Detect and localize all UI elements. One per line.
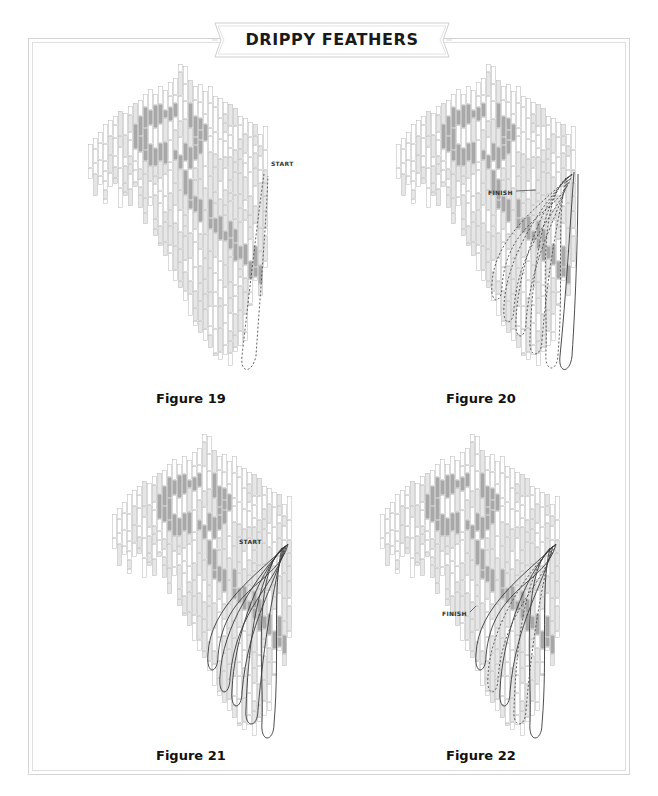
- figure-19-diagram: [88, 56, 288, 386]
- figure-22-caption: Figure 22: [446, 748, 516, 763]
- figure-22-diagram: [380, 426, 580, 756]
- quilt-strips: [397, 65, 576, 366]
- figure-20-caption: Figure 20: [446, 391, 516, 406]
- start-label: START: [239, 538, 262, 545]
- start-label: START: [271, 160, 294, 167]
- figure-20-diagram: [396, 56, 596, 386]
- figure-19-caption: Figure 19: [156, 391, 226, 406]
- page-title: DRIPPY FEATHERS: [212, 20, 452, 60]
- finish-label: FINISH: [442, 610, 467, 617]
- quilt-strips: [381, 435, 560, 736]
- figure-21-diagram: [112, 426, 312, 756]
- figure-21-caption: Figure 21: [156, 748, 226, 763]
- finish-label: FINISH: [488, 189, 513, 196]
- quilt-strips: [89, 65, 268, 366]
- title-banner: DRIPPY FEATHERS: [212, 20, 452, 60]
- quilt-strips: [113, 435, 292, 736]
